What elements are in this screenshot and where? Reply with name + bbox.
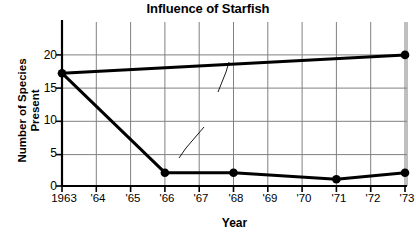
chart-container: Influence of Starfish Number of Species … xyxy=(0,0,416,238)
data-point-experimental-1971 xyxy=(332,175,341,184)
plot-area xyxy=(0,0,416,238)
data-point-experimental-1973 xyxy=(401,168,410,177)
data-point-control-1973 xyxy=(401,51,410,60)
data-point-control-1963 xyxy=(58,69,67,78)
data-point-experimental-1968 xyxy=(229,168,238,177)
data-point-experimental-1966 xyxy=(161,168,170,177)
plot-background xyxy=(62,22,407,186)
